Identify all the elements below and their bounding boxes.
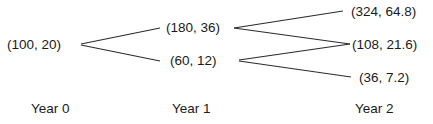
edge-y0-y1-up [81, 28, 160, 44]
node-year1-up: (180, 36) [166, 20, 220, 36]
edge-y1up-y2ud [234, 28, 350, 44]
node-year1-down: (60, 12) [170, 53, 217, 69]
label-year1: Year 1 [172, 101, 211, 117]
node-year2-ud: (108, 21.6) [352, 37, 417, 53]
edge-y1down-y2dd [239, 61, 351, 77]
node-year0: (100, 20) [7, 37, 61, 53]
label-year2: Year 2 [355, 101, 394, 117]
edge-y0-y1-down [81, 45, 160, 61]
node-year2-dd: (36, 7.2) [359, 70, 409, 86]
edge-y1up-y2uu [234, 11, 343, 28]
edge-y1down-y2ud [239, 44, 350, 60]
label-year0: Year 0 [31, 101, 70, 117]
node-year2-uu: (324, 64.8) [351, 4, 416, 20]
